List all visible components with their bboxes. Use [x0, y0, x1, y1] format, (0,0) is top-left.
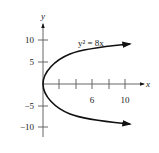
parabola-upper-branch [43, 44, 130, 84]
y-axis-label: y [40, 11, 45, 21]
x-tick-label-10: 10 [121, 95, 131, 105]
y-tick-label-10: 10 [25, 35, 35, 45]
x-axis-label: x [145, 79, 150, 89]
y-axis: y [40, 11, 45, 137]
x-tick-label-6: 6 [90, 95, 95, 105]
parabola-lower-branch [43, 84, 130, 124]
y-tick-label-5: 5 [30, 57, 35, 67]
y-tick-label-neg5: −5 [24, 101, 34, 111]
y-tick-label-neg10: −10 [20, 122, 35, 132]
equation-label: y² = 8x [78, 38, 104, 48]
parabola-plot: y x 10 5 −5 −10 6 10 y² = 8x [0, 0, 159, 153]
